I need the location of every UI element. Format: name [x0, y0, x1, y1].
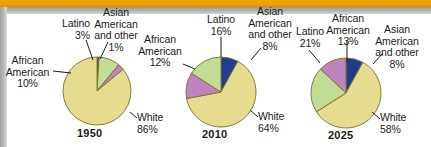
asian-value-2010: 8% [263, 40, 278, 52]
label-white-2025: White 58% [380, 112, 422, 135]
latino-value-2025: 21% [300, 37, 321, 49]
asian-line1-2010: Asian [257, 5, 283, 17]
african-line1-2010: African [144, 33, 176, 45]
white-name-2025: White [380, 111, 406, 123]
white-value-2025: 58% [380, 123, 401, 135]
latino-value-2010: 16% [211, 25, 232, 37]
white-value-2010: 64% [258, 122, 279, 134]
year-label-1950: 1950 [77, 127, 102, 139]
asian-line1-1950: Asian [103, 6, 129, 18]
asian-value-1950: 1% [109, 41, 124, 53]
pie-chart-1950: Latino 3% Asian American and other 1% Af… [0, 0, 150, 147]
asian-line2-1950: American [94, 18, 138, 30]
asian-line3-2025: and other [375, 46, 418, 58]
year-label-2010: 2010 [202, 128, 227, 140]
african-line1-2025: African [332, 12, 364, 24]
year-label-2025: 2025 [328, 129, 353, 141]
pie-chart-figure: Latino 3% Asian American and other 1% Af… [0, 0, 431, 147]
african-line2-2010: American [138, 45, 182, 57]
label-african-american-2010: African American 12% [132, 34, 188, 69]
leader-white-1950 [130, 112, 137, 118]
label-asian-2025: Asian American and other 8% [368, 24, 426, 70]
asian-line1-2025: Asian [384, 23, 410, 35]
african-value-2025: 13% [338, 35, 359, 47]
latino-name-2010: Latino [207, 13, 235, 25]
pie-chart-2025: African American 13% Asian American and … [285, 0, 431, 147]
latino-name-2025: Latino [296, 25, 324, 37]
pie-chart-2010: Latino 16% Asian American and other 8% A… [150, 0, 290, 147]
white-name-2010: White [258, 110, 284, 122]
label-african-american-1950: African American 10% [0, 55, 55, 90]
label-latino-1950: Latino 3% [28, 18, 90, 41]
african-value-1950: 10% [17, 77, 38, 89]
african-line1-1950: African [12, 54, 44, 66]
asian-value-2025: 8% [390, 58, 405, 70]
leader-white-2010 [250, 110, 258, 117]
african-line2-1950: American [6, 66, 50, 78]
label-latino-2025: Latino 21% [283, 26, 337, 49]
african-value-2010: 12% [150, 56, 171, 68]
leader-latino-2025 [309, 50, 320, 63]
asian-line2-2025: American [375, 35, 419, 47]
